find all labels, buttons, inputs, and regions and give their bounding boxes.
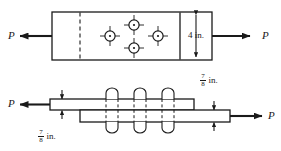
engineering-figure: P P 4 in. P P 7 8 in. 7 8 in.: [0, 0, 281, 151]
fraction-seven-eighths-right: 7 8: [200, 73, 206, 88]
fraction-denominator: 8: [38, 137, 44, 144]
plan-load-label-left: P: [8, 30, 15, 41]
elevation-load-label-left: P: [8, 98, 15, 109]
elevation-lower-plate: [80, 110, 230, 122]
plan-width-dimension-label: 4 in.: [188, 31, 204, 40]
fraction-unit: in.: [209, 76, 218, 85]
plan-load-label-right: P: [262, 30, 269, 41]
plan-view-group: [20, 12, 250, 60]
elevation-thickness-label-left: 7 8 in.: [38, 129, 56, 144]
elevation-thickness-label-right: 7 8 in.: [200, 73, 218, 88]
elevation-load-label-right: P: [268, 110, 275, 121]
fraction-numerator: 7: [38, 129, 44, 136]
fraction-unit: in.: [47, 132, 56, 141]
fraction-denominator: 8: [200, 81, 206, 88]
elevation-view-group: [20, 88, 262, 133]
fraction-seven-eighths-left: 7 8: [38, 129, 44, 144]
fraction-numerator: 7: [200, 73, 206, 80]
elevation-upper-plate: [50, 99, 194, 110]
